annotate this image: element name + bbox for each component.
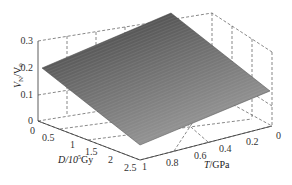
z-axis-label: VN/V0 [12,63,25,88]
z-tick: 0.3 [21,35,34,46]
x-tick: 2 [108,154,113,165]
y-tick: 0.2 [246,136,259,147]
y-tick: 1 [142,161,147,172]
surface-plot: 0.3 0.2 0.1 0 VN/V0 0 0.5 1 1.5 2 2.5 D/… [0,0,292,185]
z-tick: 0.1 [21,89,34,100]
x-tick: 0.5 [42,132,55,143]
y-tick: 0.8 [166,157,179,168]
x-tick: 2.5 [124,162,137,173]
y-axis-label: T/GPa [204,159,230,170]
y-tick: 0.4 [219,143,232,154]
x-tick: 1 [70,139,75,150]
x-axis-label: D/105Gy [57,154,93,165]
x-tick: 0 [30,125,35,136]
y-tick: 0 [276,130,281,141]
